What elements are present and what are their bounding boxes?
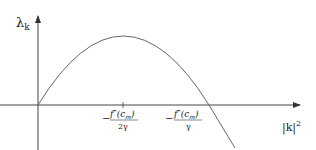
svg-text:f″(cm): f″(cm): [173, 109, 199, 120]
dispersion-curve: [38, 36, 235, 148]
svg-text:γ: γ: [186, 122, 191, 131]
dispersion-diagram: λk |k|2 − f″(cm) 2γ − f″(cm) γ: [0, 0, 316, 150]
x-axis-label: |k|2: [282, 119, 301, 135]
tick-label-zero: − f″(cm) γ: [165, 109, 202, 131]
svg-text:2γ: 2γ: [118, 122, 128, 131]
svg-text:f″(cm): f″(cm): [109, 109, 135, 120]
svg-text:−: −: [165, 113, 173, 124]
y-axis-label: λk: [16, 15, 30, 32]
tick-label-peak: − f″(cm) 2γ: [102, 109, 138, 131]
